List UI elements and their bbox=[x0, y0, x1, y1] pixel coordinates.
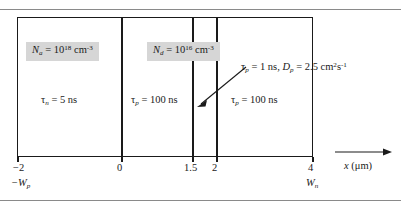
doping-units-exponent-nd: -3 bbox=[208, 44, 214, 52]
axis-tick-label-minus2: −2 bbox=[13, 162, 24, 174]
depletion-width-label-n: Wn bbox=[306, 177, 318, 190]
axis-tick-label-1p5: 1.5 bbox=[184, 162, 197, 174]
x-axis-units: (μm) bbox=[351, 160, 372, 171]
x-axis-variable: x bbox=[344, 160, 349, 171]
axis-tick-label-2: 2 bbox=[212, 162, 217, 174]
wn-symbol: W bbox=[306, 177, 315, 188]
doping-value-na: 10 bbox=[54, 44, 65, 55]
callout-d-subscript: p bbox=[290, 66, 294, 74]
wp-subscript: p bbox=[27, 182, 31, 190]
thin-strip-callout-label: τp = 1 ns, Dp = 2.5 cm2s-1 bbox=[241, 61, 347, 75]
callout-tau-value: = 1 ns, bbox=[251, 61, 279, 72]
wp-symbol: −W bbox=[11, 177, 27, 188]
doping-symbol-nd: N bbox=[153, 44, 160, 55]
page-rule-top bbox=[0, 9, 401, 10]
x-axis-label: x (μm) bbox=[344, 160, 372, 171]
tau-value-n: = 5 ns bbox=[51, 94, 77, 105]
callout-d-units-tail-exp: -1 bbox=[341, 61, 347, 69]
device-outline-box bbox=[17, 17, 313, 157]
callout-d-value: = 2.5 cm bbox=[296, 61, 333, 72]
tau-subscript-n: n bbox=[45, 99, 49, 107]
doping-label-acceptor: Na = 1018 cm-3 bbox=[26, 42, 99, 61]
depletion-width-label-p: −Wp bbox=[11, 177, 30, 190]
doping-value-nd: 10 bbox=[175, 44, 186, 55]
axis-tick-label-4: 4 bbox=[308, 162, 313, 174]
doping-units-exponent-na: -3 bbox=[87, 44, 93, 52]
tau-value-p1: = 100 ns bbox=[141, 94, 177, 105]
wn-subscript: n bbox=[315, 182, 319, 190]
doping-label-donor: Nd = 1016 cm-3 bbox=[147, 42, 220, 61]
doping-exponent-na: 18 bbox=[64, 44, 71, 52]
doping-subscript-d: d bbox=[160, 49, 164, 57]
callout-d-symbol: D bbox=[282, 61, 290, 72]
doping-subscript-a: a bbox=[39, 49, 43, 57]
junction-line-0 bbox=[121, 17, 123, 157]
lifetime-label-n-region-near: τp = 100 ns bbox=[131, 94, 178, 108]
doping-symbol-na: N bbox=[32, 44, 39, 55]
doping-units-nd: cm bbox=[195, 44, 208, 55]
page-rule-bottom bbox=[0, 200, 401, 201]
lifetime-label-p-region: τn = 5 ns bbox=[41, 94, 77, 108]
x-axis-arrow-icon bbox=[334, 147, 394, 159]
tau-subscript-p1: p bbox=[135, 99, 139, 107]
doping-exponent-nd: 16 bbox=[185, 44, 192, 52]
axis-tick-label-0: 0 bbox=[117, 162, 122, 174]
callout-arrow-icon bbox=[190, 64, 250, 110]
doping-units-na: cm bbox=[74, 44, 87, 55]
